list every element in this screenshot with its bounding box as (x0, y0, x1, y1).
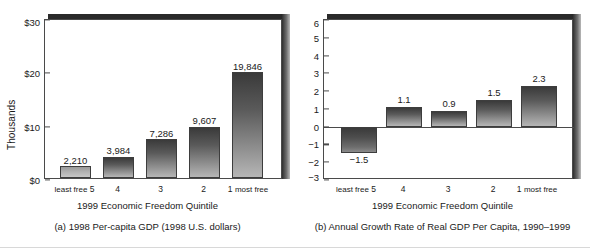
panel-b-ytick-label-6: 6 (314, 18, 324, 29)
panel-a-bar-4 (232, 72, 263, 178)
panel-a-bar-1 (103, 157, 134, 178)
panel-a-ytick-label-0: $0 (29, 175, 45, 186)
panel-b-bar-1 (386, 107, 422, 127)
panel-a-ytick-mark-10 (45, 126, 50, 127)
panel-b-ytick-label-1: 1 (314, 103, 324, 114)
panel-b-bar-4 (521, 86, 557, 127)
panel-a-ytick-mark-20 (45, 73, 50, 74)
panel-b-ytick-label-0: 0 (314, 121, 324, 132)
panel-a: Thousands $0 $10 $20 $30 2,210 3,984 (0, 0, 295, 251)
panel-a-bar-value-1: 3,984 (107, 145, 131, 156)
panel-b-bar-0 (341, 127, 377, 154)
panel-a-y-axis-label: Thousands (6, 58, 17, 150)
panel-b-ytick-mark-3 (324, 73, 329, 74)
panel-a-plot: $0 $10 $20 $30 2,210 3,984 7,286 9,607 1… (44, 19, 289, 179)
panel-a-ytick-label-20: $20 (24, 68, 45, 79)
panel-b-bar-value-3: 1.5 (487, 87, 500, 98)
panel-a-xtick-2: 3 (158, 184, 163, 194)
panel-b-xtick-0: least free 5 (336, 184, 376, 194)
figure-panels: Thousands $0 $10 $20 $30 2,210 3,984 (0, 0, 590, 251)
panel-b-bar-value-0: −1.5 (350, 154, 369, 165)
panel-a-xtick-4-qualifier: most free (235, 185, 268, 194)
panel-a-ytick-mark-30 (45, 19, 50, 20)
panel-a-bar-2 (146, 139, 177, 178)
panel-b-ytick-label-neg2: −2 (308, 157, 324, 168)
panel-b-xtick-4-qualifier: most free (524, 185, 557, 194)
panel-b-xtick-1: 4 (401, 184, 406, 194)
panel-a-x-axis-title: 1999 Economic Freedom Quintile (0, 200, 295, 211)
panel-a-xtick-0: least free 5 (54, 184, 94, 194)
panel-a-xtick-0-label: 5 (90, 184, 95, 194)
panel-b-plot-area: 6 5 4 3 2 1 0 −1 −2 −3 (323, 19, 573, 179)
panel-b-frame-shadow-right (573, 14, 581, 179)
panel-a-bar-value-2: 7,286 (150, 128, 174, 139)
panel-b-xtick-0-qualifier: least free (336, 185, 369, 194)
panel-b-ytick-mark-5 (324, 37, 329, 38)
panel-b-xtick-3: 2 (491, 184, 496, 194)
panel-b-bar-3 (476, 100, 512, 127)
bottom-rule (0, 247, 590, 248)
panel-b-ytick-label-neg3: −3 (308, 172, 324, 183)
panel-b-ytick-mark-6 (324, 19, 329, 20)
panel-b-ytick-mark-neg2 (324, 162, 329, 163)
panel-a-frame-shadow-right (282, 14, 290, 179)
panel-b-caption: (b) Annual Growth Rate of Real GDP Per C… (295, 221, 590, 232)
panel-a-xtick-0-qualifier: least free (54, 185, 87, 194)
panel-a-bar-value-4: 19,846 (233, 61, 262, 72)
panel-b-plot: 6 5 4 3 2 1 0 −1 −2 −3 (323, 19, 583, 179)
panel-b-bar-2 (431, 111, 467, 127)
panel-b-bar-value-4: 2.3 (532, 73, 545, 84)
panel-a-bar-value-3: 9,607 (193, 115, 217, 126)
panel-a-xtick-4: 1 most free (228, 184, 268, 194)
panel-b-xtick-2: 3 (446, 184, 451, 194)
panel-a-bar-0 (60, 166, 91, 178)
panel-a-xtick-1: 4 (115, 184, 120, 194)
panel-b-bar-value-2: 0.9 (442, 98, 455, 109)
panel-a-plot-area: $0 $10 $20 $30 2,210 3,984 7,286 9,607 1… (44, 19, 282, 179)
panel-b-ytick-label-neg1: −1 (308, 139, 324, 150)
panel-b-ytick-label-2: 2 (314, 86, 324, 97)
panel-b-ytick-mark-neg1 (324, 144, 329, 145)
panel-a-ytick-mark-0 (45, 179, 50, 180)
panel-a-xtick-3: 2 (201, 184, 206, 194)
panel-b-ytick-mark-2 (324, 91, 329, 92)
panel-b-ytick-label-3: 3 (314, 68, 324, 79)
panel-a-bar-3 (189, 127, 220, 178)
panel-b-x-axis-title: 1999 Economic Freedom Quintile (295, 200, 590, 211)
panel-a-bar-value-0: 2,210 (64, 155, 88, 166)
panel-b-ytick-label-5: 5 (314, 32, 324, 43)
panel-b: 6 5 4 3 2 1 0 −1 −2 −3 (295, 0, 590, 251)
panel-b-xtick-0-label: 5 (371, 184, 376, 194)
panel-b-ytick-mark-neg3 (324, 179, 329, 180)
panel-b-bar-value-1: 1.1 (397, 94, 410, 105)
panel-b-ytick-mark-4 (324, 55, 329, 56)
panel-a-xtick-4-label: 1 (228, 184, 233, 194)
panel-a-ytick-label-30: $30 (24, 17, 45, 28)
panel-a-ytick-label-10: $10 (24, 121, 45, 132)
panel-b-ytick-mark-1 (324, 108, 329, 109)
panel-a-caption: (a) 1998 Per-capita GDP (1998 U.S. dolla… (0, 221, 295, 232)
panel-b-ytick-label-4: 4 (314, 50, 324, 61)
panel-b-xtick-4: 1 most free (517, 184, 557, 194)
panel-b-xtick-4-label: 1 (517, 184, 522, 194)
